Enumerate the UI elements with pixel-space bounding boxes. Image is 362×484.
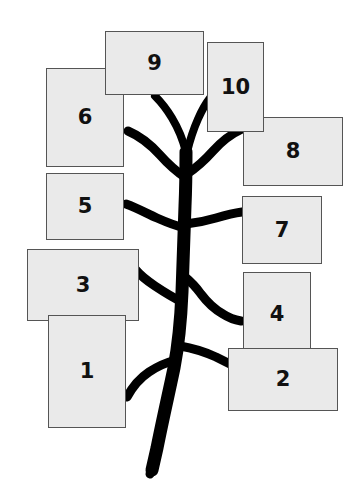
node-label-2: 2: [276, 369, 291, 390]
node-box-5[interactable]: 5: [46, 173, 124, 240]
node-box-1[interactable]: 1: [48, 315, 126, 428]
node-label-6: 6: [78, 107, 93, 128]
branch-to-node-5: [126, 204, 185, 228]
node-label-8: 8: [286, 141, 301, 162]
node-label-1: 1: [80, 361, 95, 382]
node-box-2[interactable]: 2: [228, 348, 338, 411]
branch-to-node-3: [135, 269, 182, 302]
branch-to-node-7: [186, 212, 242, 224]
node-box-7[interactable]: 7: [242, 196, 322, 264]
branch-to-node-6: [128, 131, 186, 178]
branch-to-node-4: [184, 276, 241, 321]
node-box-4[interactable]: 4: [243, 272, 311, 356]
node-label-5: 5: [78, 196, 93, 217]
node-box-3[interactable]: 3: [27, 249, 139, 321]
branch-to-node-9: [155, 96, 186, 152]
node-label-3: 3: [76, 275, 91, 296]
node-label-10: 10: [221, 77, 250, 98]
trunk-base-path: [150, 452, 156, 474]
node-label-9: 9: [147, 53, 162, 74]
node-label-4: 4: [270, 304, 285, 325]
node-box-10[interactable]: 10: [207, 42, 264, 132]
tree-diagram-canvas: 1 2 3 4 5 6 7 8 9 10: [0, 0, 362, 484]
node-box-9[interactable]: 9: [105, 31, 204, 95]
node-label-7: 7: [275, 220, 290, 241]
trunk-path: [152, 152, 186, 470]
